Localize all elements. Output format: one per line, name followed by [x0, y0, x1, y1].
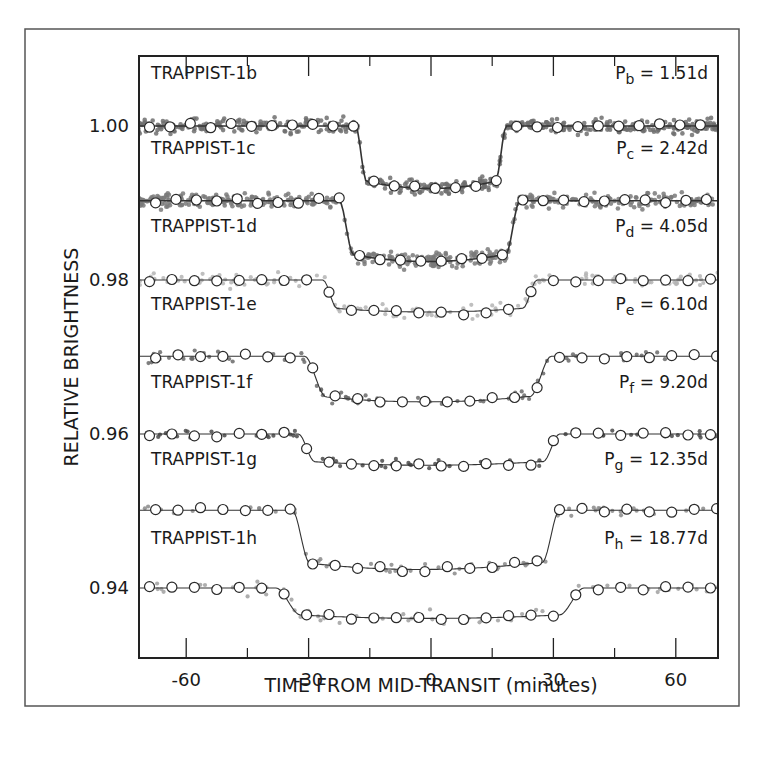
raw-data-point	[657, 194, 662, 199]
raw-data-point	[490, 303, 494, 307]
transit-light-curves-chart: -60-3003060 1.000.980.960.94 TRAPPIST-1b…	[0, 0, 777, 766]
binned-data-point	[391, 613, 401, 623]
raw-data-point	[416, 396, 420, 400]
binned-data-point	[681, 195, 691, 205]
raw-data-point	[555, 117, 560, 122]
raw-data-point	[590, 274, 594, 278]
binned-data-point	[526, 610, 536, 620]
binned-data-point	[481, 308, 491, 318]
raw-data-point	[406, 461, 410, 465]
planet-name-label: TRAPPIST-1h	[150, 528, 257, 548]
raw-data-point	[432, 264, 437, 269]
raw-data-point	[318, 618, 322, 622]
y-tick-label: 0.94	[89, 577, 129, 598]
binned-data-point	[189, 582, 199, 592]
y-tick-label: 0.96	[89, 423, 129, 444]
binned-data-point	[548, 436, 558, 446]
binned-data-point	[173, 350, 183, 360]
raw-data-point	[411, 253, 416, 258]
raw-data-point	[628, 128, 633, 133]
binned-data-point	[397, 397, 407, 407]
x-tick-label: 60	[664, 669, 687, 690]
raw-data-point	[427, 466, 431, 470]
binned-data-point	[689, 350, 699, 360]
x-axis-label: TIME FROM MID-TRANSIT (minutes)	[263, 674, 597, 696]
binned-data-point	[622, 352, 632, 362]
raw-data-point	[698, 274, 702, 278]
raw-data-point	[423, 562, 427, 566]
binned-data-point	[263, 505, 273, 515]
raw-data-point	[627, 584, 631, 588]
binned-data-point	[644, 353, 654, 363]
binned-data-point	[375, 562, 385, 572]
binned-data-point	[593, 276, 603, 286]
raw-data-point	[155, 581, 159, 585]
binned-data-point	[285, 353, 295, 363]
raw-data-point	[258, 127, 263, 132]
raw-data-point	[146, 361, 150, 365]
raw-data-point	[705, 116, 710, 121]
binned-data-point	[151, 353, 161, 363]
raw-data-point	[486, 247, 491, 252]
binned-data-point	[293, 198, 303, 208]
binned-data-point	[189, 276, 199, 286]
binned-data-point	[481, 613, 491, 623]
binned-data-point	[471, 181, 481, 191]
binned-data-point	[420, 567, 430, 577]
binned-data-point	[465, 396, 475, 406]
binned-data-point	[151, 198, 161, 208]
binned-data-point	[145, 122, 155, 132]
binned-data-point	[706, 583, 716, 593]
raw-data-point	[406, 255, 411, 260]
raw-data-point	[301, 357, 305, 361]
raw-data-point	[401, 612, 405, 616]
raw-data-point	[592, 190, 597, 195]
binned-data-point	[355, 251, 365, 261]
y-tick-label: 1.00	[89, 115, 129, 136]
raw-data-point	[439, 191, 444, 196]
binned-data-point	[145, 277, 155, 287]
raw-data-point	[243, 191, 248, 196]
binned-data-point	[620, 195, 630, 205]
raw-data-point	[605, 583, 609, 587]
raw-data-point	[687, 117, 692, 122]
raw-data-point	[584, 132, 589, 137]
raw-data-point	[221, 128, 226, 133]
raw-data-point	[406, 618, 410, 622]
binned-data-point	[302, 444, 312, 454]
binned-data-point	[287, 120, 297, 130]
raw-data-point	[297, 284, 301, 288]
binned-data-point	[616, 582, 626, 592]
binned-data-point	[369, 461, 379, 471]
raw-data-point	[584, 271, 588, 275]
binned-data-point	[263, 352, 273, 362]
binned-data-point	[145, 431, 155, 441]
raw-data-point	[474, 250, 479, 255]
binned-data-point	[667, 351, 677, 361]
raw-data-point	[338, 621, 342, 625]
binned-data-point	[349, 121, 359, 131]
binned-data-point	[487, 393, 497, 403]
raw-data-point	[453, 571, 457, 575]
binned-data-point	[430, 183, 440, 193]
binned-data-point	[661, 428, 671, 438]
binned-data-point	[171, 194, 181, 204]
raw-data-point	[629, 433, 633, 437]
binned-data-point	[173, 505, 183, 515]
binned-data-point	[165, 122, 175, 132]
binned-data-point	[279, 276, 289, 286]
planet-name-label: TRAPPIST-1g	[150, 449, 257, 469]
binned-data-point	[573, 122, 583, 132]
binned-data-point	[553, 123, 563, 133]
binned-data-point	[308, 559, 318, 569]
binned-data-point	[638, 276, 648, 286]
binned-data-point	[191, 195, 201, 205]
raw-data-point	[669, 195, 674, 200]
raw-data-point	[232, 129, 237, 134]
binned-data-point	[253, 198, 263, 208]
raw-data-point	[369, 562, 373, 566]
raw-data-point	[698, 283, 702, 287]
binned-data-point	[532, 122, 542, 132]
binned-data-point	[675, 120, 685, 130]
raw-data-point	[426, 254, 431, 259]
